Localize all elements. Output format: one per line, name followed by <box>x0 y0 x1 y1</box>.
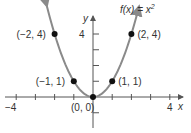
function-label: f(x) = x2 <box>120 3 155 15</box>
x-axis-label: x <box>177 101 184 112</box>
point-label: (2, 4) <box>137 29 160 40</box>
parabola-chart: (−2, 4)(−1, 1)(0, 0)(1, 1)(2, 4) −4 4 4 … <box>0 0 191 133</box>
point-label: (−2, 4) <box>17 29 46 40</box>
data-point <box>71 78 77 84</box>
point-label: (0, 0) <box>71 102 94 113</box>
data-point <box>52 31 58 37</box>
data-points: (−2, 4)(−1, 1)(0, 0)(1, 1)(2, 4) <box>17 29 161 113</box>
y-axis-label: y <box>82 13 89 24</box>
y-tick-label-4: 4 <box>79 29 85 40</box>
x-tick-label-neg4: −4 <box>5 102 17 113</box>
data-point <box>109 78 115 84</box>
point-label: (−1, 1) <box>36 76 65 87</box>
point-label: (1, 1) <box>118 76 141 87</box>
data-point <box>128 31 134 37</box>
x-tick-label-4: 4 <box>167 102 173 113</box>
data-point <box>90 94 96 100</box>
